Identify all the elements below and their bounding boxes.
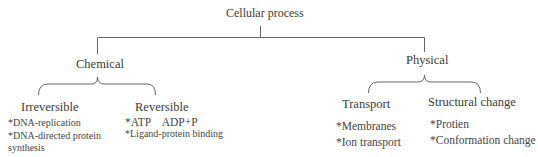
node-chemical: Chemical	[76, 58, 124, 71]
list-item: *ATP ADP+P	[125, 116, 223, 128]
list-item: *Membranes	[336, 119, 401, 135]
node-transport: Transport	[342, 98, 390, 111]
transport-items-list: *Membranes *Ion transport	[336, 119, 401, 150]
node-irreversible: Irreversible	[21, 101, 79, 114]
list-item: synthesis	[8, 142, 101, 155]
node-physical: Physical	[406, 54, 448, 67]
node-structural-change: Structural change	[428, 96, 516, 109]
list-item: *Conformation change	[430, 133, 536, 149]
list-item: *DNA-replication	[8, 117, 101, 130]
list-item: *Ion transport	[336, 135, 401, 151]
irreversible-items-list: *DNA-replication *DNA-directed protein s…	[8, 117, 101, 155]
node-reversible: Reversible	[135, 101, 188, 114]
physical-brace	[369, 75, 481, 93]
list-item: *Ligand-protein binding	[125, 128, 223, 140]
list-item: *Protien	[430, 117, 536, 133]
chemical-brace	[39, 77, 156, 95]
list-item: *DNA-directed protein	[8, 130, 101, 143]
reversible-items-list: *ATP ADP+P *Ligand-protein binding	[125, 116, 223, 140]
structural-change-items-list: *Protien *Conformation change	[430, 117, 536, 148]
root-node-cellular-process: Cellular process	[226, 7, 304, 19]
